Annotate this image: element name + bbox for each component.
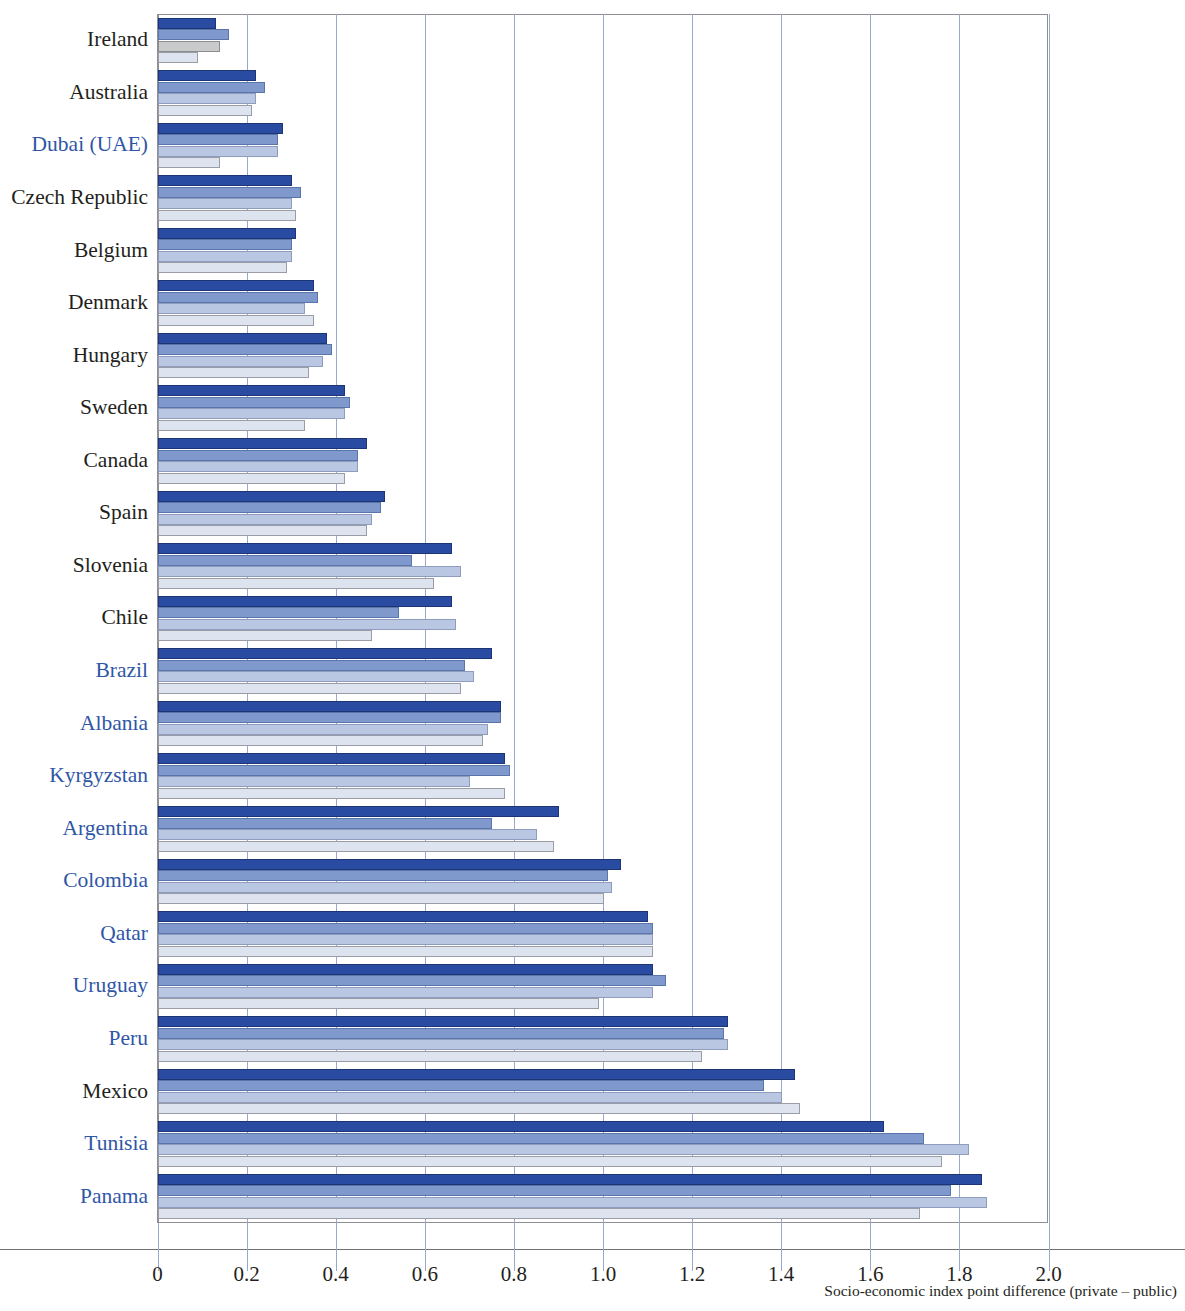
category-label-belgium: Belgium: [0, 240, 148, 262]
bar-czech-republic-series-3: [158, 198, 292, 209]
bar-uruguay-series-1: [158, 964, 653, 975]
bar-mexico-series-2: [158, 1080, 764, 1091]
bar-spain-series-1: [158, 491, 385, 502]
bar-mexico-series-3: [158, 1092, 782, 1103]
bar-group-colombia: Colombia: [0, 855, 1185, 908]
bar-group-uruguay: Uruguay: [0, 960, 1185, 1013]
bar-chile-series-2: [158, 607, 399, 618]
bar-tunisia-series-2: [158, 1133, 924, 1144]
bar-tunisia-series-1: [158, 1121, 884, 1132]
category-label-czech-republic: Czech Republic: [0, 187, 148, 209]
bar-mexico-series-4: [158, 1103, 800, 1114]
bar-group-sweden: Sweden: [0, 382, 1185, 435]
bar-ireland-series-4: [158, 52, 198, 63]
bar-spain-series-2: [158, 502, 381, 513]
bar-argentina-series-4: [158, 841, 554, 852]
bar-czech-republic-series-1: [158, 175, 292, 186]
bar-group-tunisia: Tunisia: [0, 1118, 1185, 1171]
bar-sweden-series-4: [158, 420, 305, 431]
category-label-dubai-uae: Dubai (UAE): [0, 134, 148, 156]
category-label-australia: Australia: [0, 82, 148, 104]
bar-peru-series-2: [158, 1028, 724, 1039]
bar-denmark-series-3: [158, 303, 305, 314]
category-label-albania: Albania: [0, 713, 148, 735]
category-label-canada: Canada: [0, 450, 148, 472]
bar-australia-series-3: [158, 93, 256, 104]
bar-argentina-series-1: [158, 806, 559, 817]
category-label-ireland: Ireland: [0, 29, 148, 51]
bar-hungary-series-1: [158, 333, 327, 344]
bar-sweden-series-1: [158, 385, 345, 396]
bar-group-kyrgyzstan: Kyrgyzstan: [0, 750, 1185, 803]
bar-kyrgyzstan-series-2: [158, 765, 510, 776]
bar-chile-series-4: [158, 630, 372, 641]
category-label-mexico: Mexico: [0, 1081, 148, 1103]
bar-hungary-series-2: [158, 344, 332, 355]
bar-chile-series-1: [158, 596, 452, 607]
bar-hungary-series-4: [158, 367, 309, 378]
category-label-argentina: Argentina: [0, 818, 148, 840]
bar-qatar-series-4: [158, 946, 653, 957]
bar-peru-series-4: [158, 1051, 702, 1062]
bar-group-argentina: Argentina: [0, 802, 1185, 855]
bar-peru-series-1: [158, 1016, 728, 1027]
bar-group-australia: Australia: [0, 67, 1185, 120]
bar-slovenia-series-4: [158, 578, 434, 589]
bar-group-slovenia: Slovenia: [0, 540, 1185, 593]
bar-group-brazil: Brazil: [0, 645, 1185, 698]
bar-kyrgyzstan-series-3: [158, 776, 470, 787]
category-label-panama: Panama: [0, 1186, 148, 1208]
bar-colombia-series-3: [158, 882, 612, 893]
category-label-uruguay: Uruguay: [0, 975, 148, 997]
category-label-qatar: Qatar: [0, 923, 148, 945]
bar-albania-series-3: [158, 724, 488, 735]
bar-chile-series-3: [158, 619, 456, 630]
bar-uruguay-series-4: [158, 998, 599, 1009]
bar-group-canada: Canada: [0, 435, 1185, 488]
bar-slovenia-series-2: [158, 555, 412, 566]
bar-argentina-series-2: [158, 818, 492, 829]
bar-argentina-series-3: [158, 829, 537, 840]
bar-tunisia-series-4: [158, 1156, 942, 1167]
bar-group-spain: Spain: [0, 487, 1185, 540]
category-label-peru: Peru: [0, 1028, 148, 1050]
bar-belgium-series-3: [158, 251, 292, 262]
bar-kyrgyzstan-series-1: [158, 753, 505, 764]
bar-brazil-series-4: [158, 683, 461, 694]
bar-hungary-series-3: [158, 356, 323, 367]
bar-canada-series-2: [158, 450, 358, 461]
bar-panama-series-4: [158, 1208, 920, 1219]
bar-group-qatar: Qatar: [0, 908, 1185, 961]
bar-colombia-series-4: [158, 893, 604, 904]
bar-panama-series-1: [158, 1174, 982, 1185]
bar-canada-series-3: [158, 461, 358, 472]
bar-uruguay-series-2: [158, 975, 666, 986]
bar-panama-series-2: [158, 1185, 951, 1196]
bar-group-chile: Chile: [0, 592, 1185, 645]
bar-group-czech-republic: Czech Republic: [0, 172, 1185, 225]
bar-uruguay-series-3: [158, 987, 653, 998]
bar-belgium-series-4: [158, 262, 287, 273]
bar-spain-series-4: [158, 525, 367, 536]
bar-group-dubai-uae: Dubai (UAE): [0, 119, 1185, 172]
bar-qatar-series-1: [158, 911, 648, 922]
bar-belgium-series-2: [158, 239, 292, 250]
bar-brazil-series-2: [158, 660, 465, 671]
bar-group-panama: Panama: [0, 1170, 1185, 1223]
bar-canada-series-4: [158, 473, 345, 484]
bar-brazil-series-3: [158, 671, 474, 682]
bar-slovenia-series-3: [158, 566, 461, 577]
bar-group-hungary: Hungary: [0, 329, 1185, 382]
bar-dubai-uae-series-2: [158, 134, 278, 145]
category-label-denmark: Denmark: [0, 292, 148, 314]
bar-ireland-series-2: [158, 29, 229, 40]
bar-denmark-series-1: [158, 280, 314, 291]
bar-kyrgyzstan-series-4: [158, 788, 505, 799]
category-label-chile: Chile: [0, 607, 148, 629]
bar-denmark-series-2: [158, 292, 318, 303]
bar-slovenia-series-1: [158, 543, 452, 554]
category-label-slovenia: Slovenia: [0, 555, 148, 577]
bar-denmark-series-4: [158, 315, 314, 326]
bar-group-belgium: Belgium: [0, 224, 1185, 277]
category-label-tunisia: Tunisia: [0, 1133, 148, 1155]
